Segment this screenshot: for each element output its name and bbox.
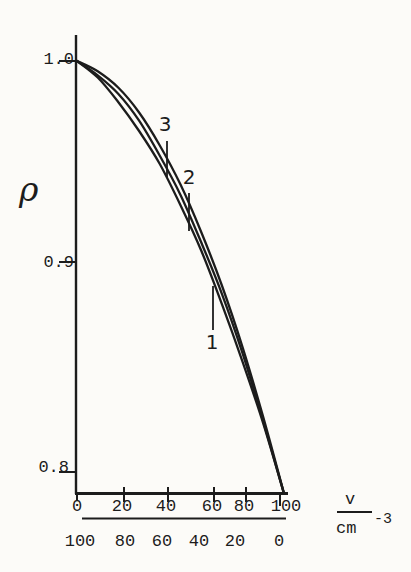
x-unit-exponent: -3 xyxy=(374,512,392,529)
x-top-label-60: 60 xyxy=(202,498,222,517)
x-bottom-label-40: 40 xyxy=(189,533,209,552)
curves xyxy=(77,61,284,494)
x-top-label-20: 20 xyxy=(112,498,132,517)
plot-canvas xyxy=(0,0,411,572)
x-unit-numerator: v xyxy=(345,491,355,510)
curve-3 xyxy=(77,61,284,494)
y-tick-label-0.9: 0.9 xyxy=(32,254,74,273)
curve-label-2: 2 xyxy=(183,166,196,188)
curve-1 xyxy=(77,61,284,494)
curve-2 xyxy=(77,61,284,494)
y-tick-label-1.0: 1.0 xyxy=(32,51,74,70)
figure: 1.0 0.9 0.8 ρ 0 20 40 60 80 100 100 80 6… xyxy=(0,0,411,572)
x-bottom-label-80: 80 xyxy=(115,533,135,552)
curve-label-1: 1 xyxy=(206,331,219,353)
x-top-label-80: 80 xyxy=(234,498,254,517)
x-unit-denominator: cm xyxy=(336,520,356,539)
x-top-label-0: 0 xyxy=(72,498,82,517)
x-bottom-label-60: 60 xyxy=(152,533,172,552)
x-bottom-label-100: 100 xyxy=(65,533,96,552)
y-tick-label-0.8: 0.8 xyxy=(27,459,69,478)
y-axis-title: ρ xyxy=(19,172,38,208)
x-top-label-40: 40 xyxy=(156,498,176,517)
x-top-label-100: 100 xyxy=(271,498,302,517)
curve-label-3: 3 xyxy=(159,113,172,135)
x-bottom-label-0: 0 xyxy=(274,533,284,552)
x-bottom-label-20: 20 xyxy=(225,533,245,552)
